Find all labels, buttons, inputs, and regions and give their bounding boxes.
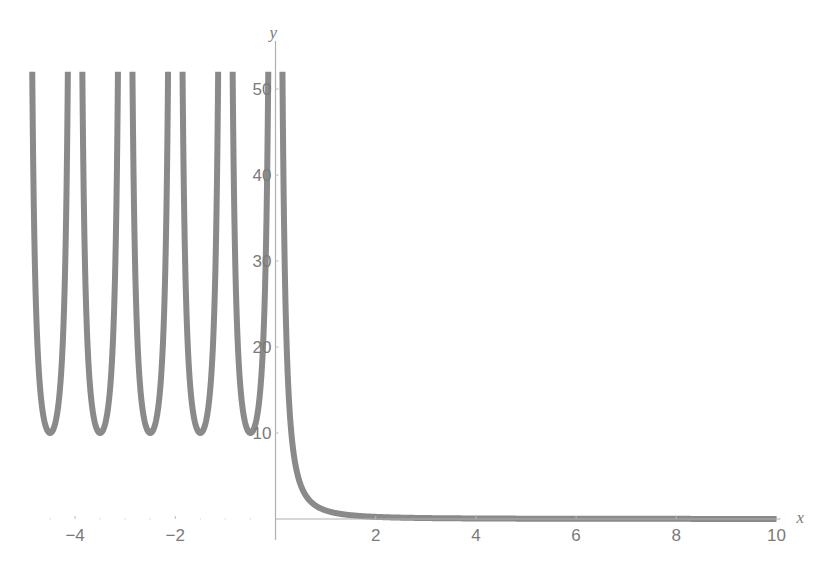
y-tick-label: 20 bbox=[253, 338, 272, 357]
x-tick-label: 10 bbox=[767, 526, 786, 545]
curve-right-branch bbox=[282, 72, 776, 519]
x-tick-label: 4 bbox=[471, 526, 480, 545]
x-minor-tick bbox=[49, 518, 51, 520]
y-tick-label: 50 bbox=[253, 80, 272, 99]
curve-left-branch-segment bbox=[183, 72, 219, 433]
x-minor-tick bbox=[124, 518, 126, 520]
x-minor-tick bbox=[149, 518, 151, 520]
x-tick-label: 2 bbox=[371, 526, 380, 545]
curves bbox=[32, 72, 776, 519]
x-minor-tick bbox=[200, 518, 202, 520]
x-tick-label: −4 bbox=[65, 526, 84, 545]
curve-left-branch-segment bbox=[132, 72, 168, 433]
curve-left-branch-segment bbox=[32, 72, 68, 433]
x-tick-label: −2 bbox=[166, 526, 185, 545]
x-axis-title: x bbox=[796, 508, 805, 527]
chart: −4−22468101020304050 x y bbox=[0, 0, 832, 573]
x-tick-label: 6 bbox=[571, 526, 580, 545]
y-tick-label: 30 bbox=[253, 252, 272, 271]
x-tick-label: 8 bbox=[672, 526, 681, 545]
x-minor-tick bbox=[225, 518, 227, 520]
x-minor-tick bbox=[99, 518, 101, 520]
ticks bbox=[49, 89, 776, 520]
curve-left-branch-segment bbox=[82, 72, 118, 433]
y-axis-title: y bbox=[268, 23, 278, 42]
x-minor-tick bbox=[250, 518, 252, 520]
y-tick-label: 40 bbox=[253, 166, 272, 185]
y-tick-label: 10 bbox=[253, 424, 272, 443]
tick-labels: −4−22468101020304050 bbox=[65, 80, 786, 545]
